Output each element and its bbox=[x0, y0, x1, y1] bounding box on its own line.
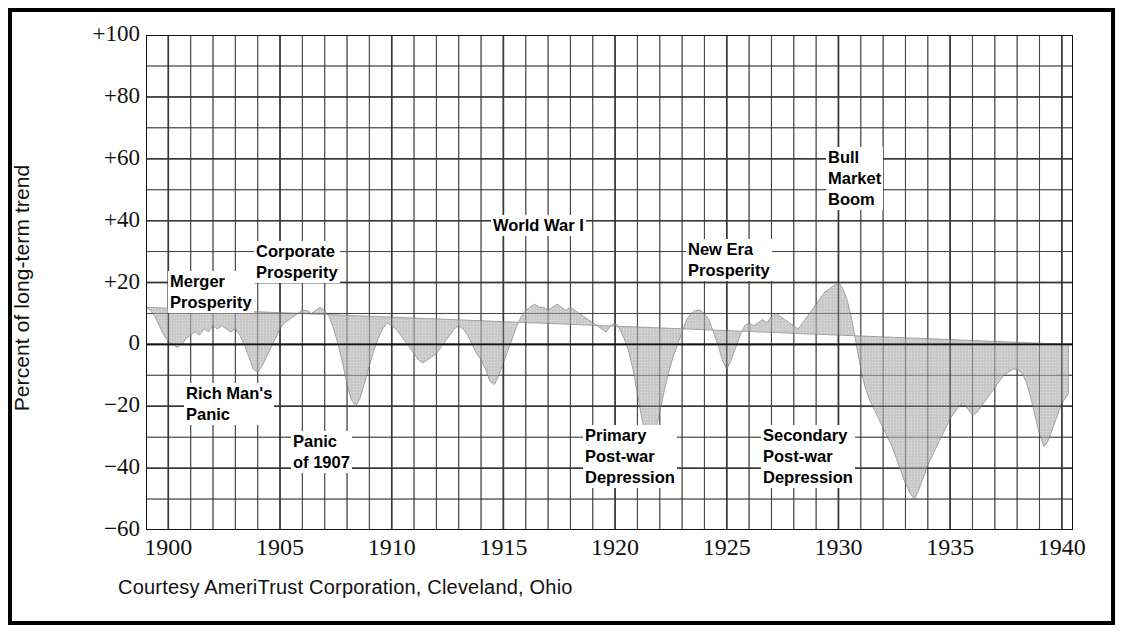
annotation-line: Post-war bbox=[763, 446, 853, 467]
plot-area: MergerProsperityCorporateProsperityRich … bbox=[146, 35, 1073, 530]
annotation-line: Post-war bbox=[585, 446, 675, 467]
x-axis-tick-labels: 190019051910191519201925193019351940 bbox=[146, 534, 1073, 574]
annotation-line: of 1907 bbox=[293, 452, 350, 473]
x-tick-1920: 1920 bbox=[555, 534, 675, 561]
y-axis-tick-labels: +100+80+60+40+200−20−40−60 bbox=[40, 35, 140, 530]
y-tick--20: −20 bbox=[54, 392, 140, 418]
annotation-bull-market-boom: BullMarketBoom bbox=[826, 147, 883, 210]
annotation-line: Prosperity bbox=[256, 262, 338, 283]
annotation-merger-prosperity: MergerProsperity bbox=[168, 271, 254, 313]
annotation-line: Depression bbox=[585, 467, 675, 488]
y-tick--40: −40 bbox=[54, 454, 140, 480]
annotation-line: Market bbox=[828, 168, 881, 189]
x-tick-1930: 1930 bbox=[778, 534, 898, 561]
annotation-line: Prosperity bbox=[170, 292, 252, 313]
annotation-corporate-prosperity: CorporateProsperity bbox=[254, 241, 340, 283]
x-tick-1905: 1905 bbox=[220, 534, 340, 561]
annotation-line: Secondary bbox=[763, 425, 853, 446]
x-tick-1935: 1935 bbox=[890, 534, 1010, 561]
annotation-world-war-i: World War I bbox=[491, 215, 586, 236]
annotation-line: Corporate bbox=[256, 241, 338, 262]
x-tick-1900: 1900 bbox=[108, 534, 228, 561]
y-tick-80: +80 bbox=[54, 83, 140, 109]
source-caption: Courtesy AmeriTrust Corporation, Clevela… bbox=[118, 576, 573, 599]
x-tick-1910: 1910 bbox=[332, 534, 452, 561]
annotation-line: New Era bbox=[688, 239, 770, 260]
annotation-line: Primary bbox=[585, 425, 675, 446]
annotation-line: Prosperity bbox=[688, 260, 770, 281]
x-tick-1915: 1915 bbox=[443, 534, 563, 561]
annotation-secondary-postwar-depression: SecondaryPost-warDepression bbox=[761, 425, 855, 488]
annotation-line: Bull bbox=[828, 147, 881, 168]
chart-figure: Percent of long-term trend +100+80+60+40… bbox=[0, 0, 1131, 641]
annotation-line: Boom bbox=[828, 189, 881, 210]
annotation-line: Merger bbox=[170, 271, 252, 292]
annotation-line: World War I bbox=[493, 215, 584, 236]
annotation-line: Panic bbox=[293, 431, 350, 452]
x-tick-1940: 1940 bbox=[1002, 534, 1122, 561]
annotation-new-era-prosperity: New EraProsperity bbox=[686, 239, 772, 281]
annotation-panic-of-1907: Panicof 1907 bbox=[291, 431, 352, 473]
annotation-line: Depression bbox=[763, 467, 853, 488]
y-tick-40: +40 bbox=[54, 207, 140, 233]
x-tick-1925: 1925 bbox=[667, 534, 787, 561]
annotation-line: Panic bbox=[186, 404, 272, 425]
annotation-rich-mans-panic: Rich Man'sPanic bbox=[184, 383, 274, 425]
y-tick-100: +100 bbox=[54, 21, 140, 47]
y-tick-20: +20 bbox=[54, 269, 140, 295]
y-axis-title: Percent of long-term trend bbox=[10, 98, 34, 478]
annotation-line: Rich Man's bbox=[186, 383, 272, 404]
y-tick-0: 0 bbox=[54, 330, 140, 356]
y-tick-60: +60 bbox=[54, 145, 140, 171]
annotation-primary-postwar-depression: PrimaryPost-warDepression bbox=[583, 425, 677, 488]
